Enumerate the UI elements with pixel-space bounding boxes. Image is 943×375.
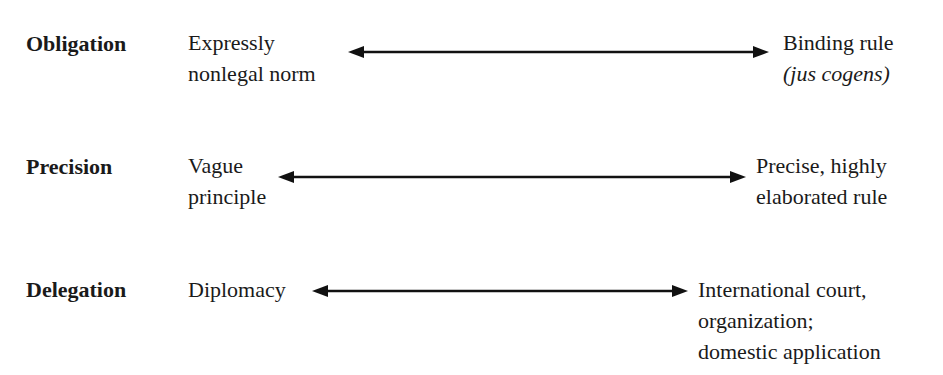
precision-high-end: Precise, highly elaborated rule — [756, 150, 887, 212]
obligation-low-end: Expressly nonlegal norm — [188, 27, 316, 89]
delegation-high-line-3: domestic application — [698, 336, 881, 367]
delegation-low-end: Diplomacy — [188, 274, 286, 305]
precision-double-arrow — [278, 170, 746, 184]
double-arrow-icon — [312, 284, 688, 298]
dimension-label-obligation: Obligation — [26, 29, 126, 59]
jus-cogens-italic: (jus cogens) — [783, 61, 890, 86]
dimension-label-delegation: Delegation — [26, 275, 126, 305]
precision-low-line-2: principle — [188, 181, 266, 212]
delegation-high-line-1: International court, — [698, 274, 881, 305]
precision-low-end: Vague principle — [188, 150, 266, 212]
precision-high-line-2: elaborated rule — [756, 181, 887, 212]
obligation-high-line-2: (jus cogens) — [783, 58, 894, 89]
obligation-low-line-2: nonlegal norm — [188, 58, 316, 89]
obligation-low-line-1: Expressly — [188, 27, 316, 58]
delegation-low-line-1: Diplomacy — [188, 274, 286, 305]
delegation-high-end: International court, organization; domes… — [698, 274, 881, 367]
precision-high-line-1: Precise, highly — [756, 150, 887, 181]
delegation-high-line-2: organization; — [698, 305, 881, 336]
delegation-double-arrow — [312, 284, 688, 298]
obligation-double-arrow — [348, 45, 769, 59]
obligation-high-line-1: Binding rule — [783, 27, 894, 58]
double-arrow-icon — [348, 45, 769, 59]
precision-low-line-1: Vague — [188, 150, 266, 181]
obligation-high-end: Binding rule (jus cogens) — [783, 27, 894, 89]
double-arrow-icon — [278, 170, 746, 184]
dimension-label-precision: Precision — [26, 152, 112, 182]
